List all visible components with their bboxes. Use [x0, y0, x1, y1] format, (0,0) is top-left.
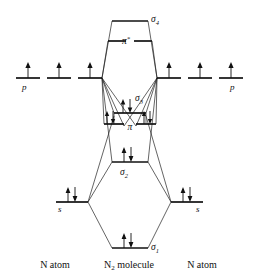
molecular-levels [104, 21, 156, 248]
mo-diagram-svg: p p s s σ4 π* σ3 π σ2 σ1 N atom N2 molec… [0, 0, 254, 273]
electrons-right-p-2 [197, 62, 202, 78]
label-sigma-4: σ4 [151, 14, 160, 26]
electrons-right-s [181, 187, 193, 202]
label-pi-star: π* [122, 35, 131, 46]
bottom-labels: N atom N2 molecule N atom [40, 259, 217, 272]
label-sigma-2: σ2 [120, 167, 129, 179]
label-sigma-1: σ1 [151, 242, 159, 254]
right-atom-levels [157, 78, 243, 202]
mo-diagram-root: p p s s σ4 π* σ3 π σ2 σ1 N atom N2 molec… [0, 0, 254, 273]
electrons-left-p-1 [25, 62, 30, 78]
electrons-sigma-3 [121, 99, 133, 113]
corr-lefts-sigma2 [88, 162, 112, 202]
corr-lefts-sigma3 [88, 116, 114, 202]
orbital-labels: p p s s σ4 π* σ3 π σ2 σ1 [21, 14, 235, 254]
correlation-lines [88, 21, 171, 248]
corr-lefts-sigma1 [88, 202, 112, 248]
label-s-left: s [58, 204, 62, 214]
electrons-left-s [66, 187, 78, 202]
corr-rights-sigma3 [146, 116, 171, 202]
corr-rights-sigma2 [148, 162, 171, 202]
left-atom-levels [16, 78, 102, 202]
electrons-left-p-3 [87, 62, 92, 78]
bottom-label-left-atom: N atom [40, 259, 70, 270]
electrons-right-p-3 [228, 62, 233, 78]
label-sigma-3: σ3 [135, 93, 144, 105]
corr-leftp-pistar [102, 41, 108, 78]
electrons-left-p-2 [56, 62, 61, 78]
bottom-label-molecule: N2 molecule [104, 259, 154, 272]
electron-arrows [25, 62, 233, 248]
electrons-pi-right [142, 111, 152, 124]
electrons-right-p-1 [166, 62, 171, 78]
label-pi: π [128, 122, 133, 132]
bottom-label-right-atom: N atom [187, 259, 217, 270]
electrons-sigma-2 [122, 147, 134, 162]
corr-rightp-pistar [152, 41, 157, 78]
electrons-sigma-1 [122, 233, 134, 248]
label-p-left: p [21, 82, 27, 92]
label-p-right: p [229, 82, 235, 92]
label-s-right: s [196, 204, 200, 214]
